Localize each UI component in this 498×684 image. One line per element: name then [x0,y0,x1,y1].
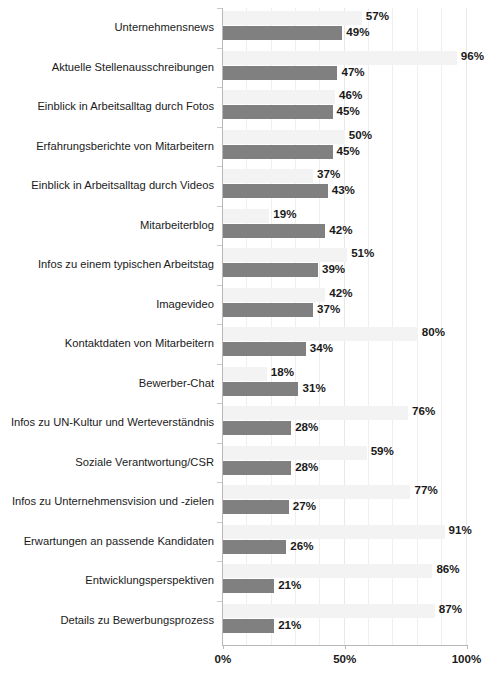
bar-value-series-2: 28% [295,460,318,474]
bar-series-1 [223,406,408,420]
bar-series-1 [223,169,313,183]
bar-series-2 [223,145,333,159]
bar-series-2 [223,500,289,514]
bar-value-series-1: 57% [366,9,389,23]
category-tick [217,522,222,523]
bar-series-1 [223,288,325,302]
bar-value-series-1: 76% [412,404,435,418]
category-label: Bewerber-Chat [0,377,214,390]
table-row: Entwicklungsperspektiven86%21% [0,561,498,601]
category-label: Unternehmensnews [0,21,214,34]
table-row: Unternehmensnews57%49% [0,8,498,48]
bar-value-series-2: 43% [332,183,355,197]
bar-series-2 [223,382,298,396]
category-tick [217,561,222,562]
category-tick [217,403,222,404]
table-row: Erfahrungsberichte von Mitarbeitern50%45… [0,127,498,167]
bar-series-1 [223,51,457,65]
table-row: Kontaktdaten von Mitarbeitern80%34% [0,324,498,364]
bar-series-2 [223,619,274,633]
category-tick [217,364,222,365]
x-axis-label: 50% [333,652,356,665]
bar-value-series-2: 21% [278,618,301,632]
category-label: Details zu Bewerbungsprozess [0,614,214,627]
bar-value-series-2: 28% [295,420,318,434]
category-label: Einblick in Arbeitsalltag durch Fotos [0,100,214,113]
table-row: Infos zu UN-Kultur und Werteverständnis7… [0,403,498,443]
category-label: Infos zu einem typischen Arbeitstag [0,258,214,271]
bar-series-2 [223,461,291,475]
table-row: Einblick in Arbeitsalltag durch Videos37… [0,166,498,206]
category-tick [217,245,222,246]
x-axis-label: 100% [452,652,482,665]
table-row: Infos zu Unternehmensvision und -zielen7… [0,482,498,522]
bar-value-series-1: 42% [329,286,352,300]
table-row: Aktuelle Stellenausschreibungen96%47% [0,48,498,88]
category-tick [217,48,222,49]
category-tick [217,443,222,444]
table-row: Infos zu einem typischen Arbeitstag51%39… [0,245,498,285]
table-row: Details zu Bewerbungsprozess87%21% [0,601,498,641]
bar-value-series-2: 49% [346,25,369,39]
bar-value-series-1: 59% [371,444,394,458]
category-label: Erfahrungsberichte von Mitarbeitern [0,140,214,153]
x-tick-0 [223,645,224,649]
bar-series-2 [223,224,325,238]
table-row: Imagevideo42%37% [0,285,498,325]
bar-value-series-2: 37% [317,302,340,316]
bar-value-series-2: 31% [302,381,325,395]
bar-series-2 [223,540,286,554]
bar-series-1 [223,248,347,262]
bar-value-series-1: 37% [317,167,340,181]
bar-value-series-1: 18% [271,365,294,379]
bar-series-1 [223,90,335,104]
bar-value-series-1: 96% [461,49,484,63]
category-tick [217,166,222,167]
category-label: Kontaktdaten von Mitarbeitern [0,337,214,350]
bar-series-1 [223,209,269,223]
bar-value-series-2: 26% [290,539,313,553]
category-tick [217,324,222,325]
category-label: Mitarbeiterblog [0,219,214,232]
bar-series-1 [223,130,345,144]
bar-value-series-2: 42% [329,223,352,237]
table-row: Mitarbeiterblog19%42% [0,206,498,246]
category-label: Imagevideo [0,298,214,311]
bar-series-1 [223,564,432,578]
bar-value-series-2: 45% [337,144,360,158]
bar-series-1 [223,446,367,460]
bar-value-series-2: 21% [278,578,301,592]
x-tick-50 [345,645,346,649]
category-tick [217,482,222,483]
bar-series-2 [223,579,274,593]
table-row: Soziale Verantwortung/CSR59%28% [0,443,498,483]
bar-value-series-2: 39% [322,262,345,276]
bar-value-series-1: 19% [273,207,296,221]
bar-value-series-1: 51% [351,246,374,260]
category-tick [217,206,222,207]
bar-series-2 [223,66,337,80]
bar-series-2 [223,184,328,198]
bar-series-1 [223,485,410,499]
category-tick [217,601,222,602]
table-row: Einblick in Arbeitsalltag durch Fotos46%… [0,87,498,127]
bar-value-series-1: 46% [339,88,362,102]
bar-value-series-1: 80% [422,325,445,339]
bar-value-series-1: 87% [439,602,462,616]
bar-value-series-2: 47% [341,65,364,79]
bar-series-1 [223,525,445,539]
bar-chart: Unternehmensnews57%49%Aktuelle Stellenau… [0,0,498,684]
bar-series-1 [223,367,267,381]
x-tick-100 [467,645,468,649]
bar-series-1 [223,11,362,25]
x-axis-label: 0% [215,652,232,665]
bar-series-2 [223,303,313,317]
bar-series-1 [223,604,435,618]
bar-value-series-2: 45% [337,104,360,118]
bar-series-1 [223,327,418,341]
category-label: Aktuelle Stellenausschreibungen [0,61,214,74]
category-label: Soziale Verantwortung/CSR [0,456,214,469]
category-label: Infos zu Unternehmensvision und -zielen [0,495,214,508]
category-label: Entwicklungsperspektiven [0,574,214,587]
category-label: Erwartungen an passende Kandidaten [0,535,214,548]
